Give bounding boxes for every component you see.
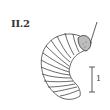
larva-illustration: [0, 0, 110, 110]
larva-head: [78, 36, 91, 51]
scale-bar-label: 1: [96, 74, 101, 83]
scale-bar: [89, 67, 95, 92]
